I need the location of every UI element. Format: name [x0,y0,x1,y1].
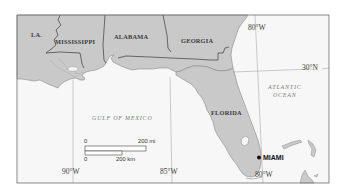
label-80w-top: 80°W [248,24,266,32]
miami-dot [257,156,261,160]
scale-km-label: 200 km [116,157,135,163]
state-label-mississippi: MISSISSIPPI [55,39,95,45]
water-label-atlantic: ATLANTIC OCEAN [268,84,302,98]
scale-mi-label: 200 mi [138,139,155,145]
state-label-georgia: GEORGIA [181,38,213,44]
scale-km-zero: 0 [84,157,87,163]
label-90w: 90°W [62,168,80,176]
state-label-alabama: ALABAMA [114,34,148,40]
state-label-florida: FLORIDA [211,110,242,116]
atlantic-line1: ATLANTIC [268,84,302,90]
city-label-miami: MIAMI [263,154,284,161]
water-label-gulf: GULF OF MEXICO [92,115,153,121]
florida-map: LA. MISSISSIPPI ALABAMA GEORGIA FLORIDA … [0,0,344,196]
label-85w: 85°W [160,168,178,176]
state-label-la: LA. [31,32,42,38]
label-30n: 30°N [302,64,318,72]
scale-mi-zero: 0 [84,139,87,145]
atlantic-line2: OCEAN [268,92,302,98]
label-80w-bottom: 80°W [255,171,273,179]
